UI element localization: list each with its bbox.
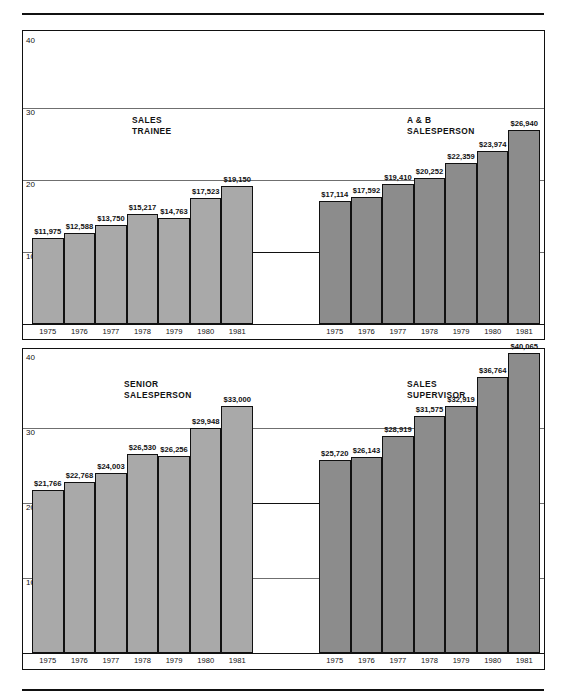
x-axis-tick-1976: 1976 — [64, 325, 96, 339]
x-axis-tick-1981: 1981 — [508, 325, 540, 339]
bar — [158, 218, 190, 324]
bar — [351, 457, 383, 653]
x-axis-tick-1978: 1978 — [414, 654, 446, 668]
x-axis-tick-1977: 1977 — [95, 325, 127, 339]
upper-plot-area: 40302010$11,9751975$12,5881976$13,750197… — [23, 31, 544, 339]
bar — [32, 238, 64, 324]
bar — [319, 201, 351, 324]
bar — [477, 377, 509, 653]
x-axis-tick-1975: 1975 — [32, 325, 64, 339]
chart-page: 40302010$11,9751975$12,5881976$13,750197… — [0, 0, 567, 698]
x-axis-tick-1976: 1976 — [64, 654, 96, 668]
bar — [351, 197, 383, 324]
bar — [127, 214, 159, 324]
lower-chart-panel: 40302010$21,7661975$22,7681976$24,003197… — [22, 348, 545, 670]
bar-value-label: $26,940 — [500, 120, 548, 128]
series-group-left: $21,7661975$22,7681976$24,0031977$26,530… — [32, 349, 253, 669]
series-title: A & B SALESPERSON — [407, 115, 475, 137]
bar — [190, 428, 222, 653]
bar — [32, 490, 64, 653]
series-group-left: $11,9751975$12,5881976$13,7501977$15,217… — [32, 31, 253, 339]
x-axis-tick-1981: 1981 — [221, 654, 253, 668]
x-axis-tick-1976: 1976 — [351, 325, 383, 339]
x-axis-tick-1975: 1975 — [32, 654, 64, 668]
top-divider-rule — [22, 13, 544, 15]
bar — [414, 178, 446, 324]
bar — [64, 233, 96, 324]
bar — [414, 416, 446, 653]
x-axis-tick-1980: 1980 — [477, 654, 509, 668]
x-axis-tick-1980: 1980 — [477, 325, 509, 339]
gutter-connector — [253, 503, 319, 504]
bar — [508, 353, 540, 654]
bar — [477, 151, 509, 324]
series-group-right: $25,7201975$26,1431976$28,9191977$31,575… — [319, 349, 540, 669]
series-group-right: $17,1141975$17,5921976$19,4101977$20,252… — [319, 31, 540, 339]
x-axis-tick-1979: 1979 — [158, 325, 190, 339]
series-title: SALES TRAINEE — [132, 115, 172, 137]
x-axis-tick-1975: 1975 — [319, 654, 351, 668]
bar — [221, 186, 253, 324]
bar — [445, 163, 477, 324]
x-axis-tick-1976: 1976 — [351, 654, 383, 668]
bar — [64, 482, 96, 653]
bar — [221, 406, 253, 654]
x-axis-tick-1975: 1975 — [319, 325, 351, 339]
x-axis-tick-1977: 1977 — [95, 654, 127, 668]
bar-value-label: $33,000 — [213, 396, 261, 404]
x-axis-tick-1977: 1977 — [382, 325, 414, 339]
bar — [445, 406, 477, 653]
bar — [95, 225, 127, 324]
x-axis-tick-1981: 1981 — [508, 654, 540, 668]
bar — [95, 473, 127, 653]
lower-plot-area: 40302010$21,7661975$22,7681976$24,003197… — [23, 349, 544, 669]
bar — [319, 460, 351, 653]
bar — [382, 436, 414, 653]
x-axis-tick-1978: 1978 — [414, 325, 446, 339]
bar-value-label: $19,150 — [213, 176, 261, 184]
bar — [158, 456, 190, 653]
bar — [190, 198, 222, 324]
x-axis-tick-1980: 1980 — [190, 654, 222, 668]
bar-value-label: $40,065 — [500, 343, 548, 351]
bar — [382, 184, 414, 324]
series-title: SALES SUPERVISOR — [407, 379, 466, 401]
x-axis-tick-1978: 1978 — [127, 325, 159, 339]
x-axis-tick-1979: 1979 — [445, 325, 477, 339]
series-title: SENIOR SALESPERSON — [124, 379, 192, 401]
x-axis-tick-1978: 1978 — [127, 654, 159, 668]
x-axis-tick-1979: 1979 — [445, 654, 477, 668]
x-axis-tick-1977: 1977 — [382, 654, 414, 668]
bar — [508, 130, 540, 324]
upper-chart-panel: 40302010$11,9751975$12,5881976$13,750197… — [22, 30, 545, 340]
x-axis-tick-1980: 1980 — [190, 325, 222, 339]
x-axis-tick-1979: 1979 — [158, 654, 190, 668]
bottom-divider-rule — [22, 689, 544, 691]
bar — [127, 454, 159, 653]
gutter-connector — [253, 252, 319, 253]
x-axis-tick-1981: 1981 — [221, 325, 253, 339]
